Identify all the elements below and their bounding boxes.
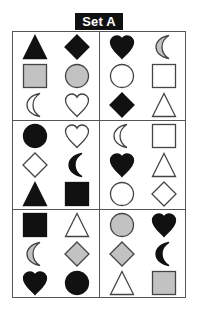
white-crescent-icon	[109, 123, 135, 149]
black-heart-icon	[109, 34, 135, 60]
panel-bottom-right	[100, 210, 186, 297]
gray-crescent-icon	[22, 241, 48, 267]
gray-square-icon	[22, 63, 48, 89]
gray-square-icon	[151, 270, 177, 296]
white-circle-icon	[109, 181, 135, 207]
black-triangle-icon	[22, 34, 48, 60]
white-diamond-icon	[22, 152, 48, 178]
black-square-icon	[22, 212, 48, 238]
panel-bottom-left	[13, 210, 100, 297]
white-crescent-icon	[22, 92, 48, 118]
black-diamond-icon	[109, 92, 135, 118]
shape-grid	[12, 31, 186, 298]
black-crescent-icon	[151, 241, 177, 267]
black-square-icon	[64, 181, 90, 207]
white-triangle-icon	[64, 212, 90, 238]
white-circle-icon	[109, 63, 135, 89]
black-crescent-icon	[64, 152, 90, 178]
black-diamond-icon	[64, 34, 90, 60]
white-square-icon	[151, 63, 177, 89]
white-diamond-icon	[151, 181, 177, 207]
white-heart-icon	[64, 92, 90, 118]
panel-middle-right	[100, 121, 186, 210]
panel-top-left	[13, 32, 100, 121]
gray-diamond-icon	[109, 241, 135, 267]
panel-middle-left	[13, 121, 100, 210]
black-heart-icon	[22, 270, 48, 296]
set-title: Set A	[75, 13, 123, 30]
black-triangle-icon	[22, 181, 48, 207]
black-heart-icon	[151, 212, 177, 238]
white-triangle-icon	[151, 152, 177, 178]
black-circle-icon	[22, 123, 48, 149]
gray-circle-icon	[109, 212, 135, 238]
black-heart-icon	[109, 152, 135, 178]
white-triangle-icon	[151, 92, 177, 118]
black-circle-icon	[64, 270, 90, 296]
white-square-icon	[151, 123, 177, 149]
gray-circle-icon	[64, 63, 90, 89]
panel-top-right	[100, 32, 186, 121]
gray-crescent-icon	[151, 34, 177, 60]
white-triangle-icon	[109, 270, 135, 296]
white-heart-icon	[64, 123, 90, 149]
gray-diamond-icon	[64, 241, 90, 267]
